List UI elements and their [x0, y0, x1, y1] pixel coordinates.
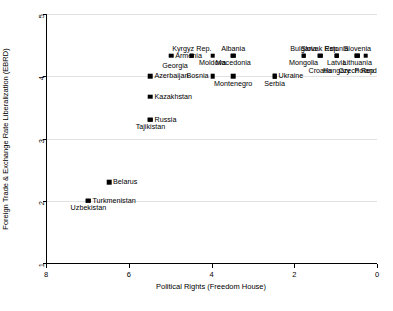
y-tick-label: 1 [37, 263, 46, 267]
data-point-label: Macedonia [216, 59, 251, 66]
x-axis-line: 86420 [46, 263, 377, 264]
data-point-label: Georgia [162, 62, 188, 69]
data-point-label: Poland [354, 67, 376, 74]
x-axis-title: Political Rights (Freedom House) [156, 282, 266, 291]
data-point-marker [169, 53, 174, 58]
x-tick [294, 264, 295, 268]
data-point-marker [148, 94, 153, 99]
data-point-label: Albania [221, 45, 245, 52]
data-point-label: Montenegro [214, 80, 252, 87]
data-point-label: Azerbaijan [154, 73, 188, 80]
x-tick [212, 264, 213, 268]
data-point-marker [355, 53, 360, 58]
scatter-plot-figure: Foreign Trade & Exchange Rate Liberaliza… [0, 0, 393, 311]
x-tick-label: 0 [375, 270, 379, 279]
gridline [47, 139, 377, 140]
data-point-label: Uzbekistan [71, 204, 107, 211]
x-tick-label: 6 [127, 270, 131, 279]
data-point-marker [318, 53, 323, 58]
data-point-marker [148, 74, 153, 79]
gridline [47, 14, 377, 15]
data-point-label: Slovenia [344, 45, 372, 52]
y-axis-title: Foreign Trade & Exchange Rate Liberaliza… [1, 48, 10, 229]
y-tick-label: 4 [37, 76, 46, 80]
x-tick [46, 264, 47, 268]
data-point-label: Tajikistan [136, 123, 166, 130]
data-point-label: Kyrgyz Rep. [172, 45, 211, 52]
y-tick-label: 5 [37, 14, 46, 18]
data-point-label: Armenia [175, 52, 202, 59]
data-point-marker [107, 180, 112, 185]
plot-area: 12345 ArmeniaKyrgyz Rep.GeorgiaMoldovaAl… [46, 14, 377, 263]
y-tick-label: 3 [37, 139, 46, 143]
data-point-marker [334, 53, 339, 58]
data-point-label: Bosnia [187, 73, 209, 80]
data-point-label: Serbia [264, 80, 285, 87]
x-tick [377, 264, 378, 268]
x-tick-label: 8 [44, 270, 48, 279]
x-tick-label: 4 [209, 270, 213, 279]
data-point-label: Belarus [113, 178, 137, 185]
x-tick-label: 2 [292, 270, 296, 279]
data-point-label: Kazakhstan [154, 93, 192, 100]
x-tick [129, 264, 130, 268]
y-tick-label: 2 [37, 201, 46, 205]
data-point-marker [363, 53, 368, 58]
data-point-marker [190, 53, 195, 58]
